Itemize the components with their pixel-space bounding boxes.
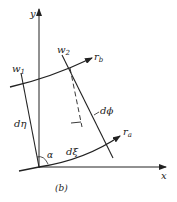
dashed-normal xyxy=(70,68,82,127)
alpha-label: α xyxy=(47,150,53,160)
diagram-canvas: y x ra rb w1 w2 dϕ dη dξ α (b) xyxy=(0,0,177,202)
ra-label: ra xyxy=(123,126,132,139)
deta-label: dη xyxy=(14,118,26,129)
dashed-tick xyxy=(71,122,81,123)
y-axis-label: y xyxy=(29,8,36,19)
w2-label: w2 xyxy=(57,44,71,57)
dxi-label: dξ xyxy=(66,146,78,157)
dphi-label: dϕ xyxy=(100,105,113,116)
x-axis-label: x xyxy=(161,170,167,181)
figure-caption: (b) xyxy=(55,183,68,193)
rb-label: rb xyxy=(94,51,104,64)
dphi-leader xyxy=(94,112,99,115)
w1-label: w1 xyxy=(12,63,25,76)
